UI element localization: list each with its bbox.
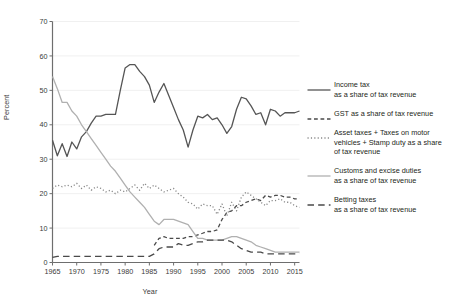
- x-tick-label: 2005: [238, 267, 254, 276]
- x-tick-label: 1985: [141, 267, 157, 276]
- y-tick-label: 30: [40, 155, 48, 164]
- y-tick-label: 10: [40, 224, 48, 233]
- series-line-3: [53, 77, 300, 253]
- tax-revenue-share-chart: 0102030405060701965197019751980198519901…: [0, 0, 461, 303]
- x-tick-label: 1975: [93, 267, 109, 276]
- legend-item-label: Income tax as a share of tax revenue: [334, 80, 416, 99]
- legend-item-label: Customs and excise duties as a share of …: [334, 166, 421, 185]
- legend-swatch-icon: [307, 167, 331, 177]
- x-tick-label: 1995: [190, 267, 206, 276]
- legend-item-1[interactable]: GST as a share of tax revenue: [307, 109, 459, 119]
- legend-item-0[interactable]: Income tax as a share of tax revenue: [307, 80, 459, 99]
- x-tick-label: 1980: [117, 267, 133, 276]
- legend-item-2[interactable]: Asset taxes + Taxes on motor vehicles + …: [307, 128, 459, 157]
- legend-item-3[interactable]: Customs and excise duties as a share of …: [307, 166, 459, 185]
- y-tick-label: 70: [40, 17, 48, 26]
- chart-legend: Income tax as a share of tax revenueGST …: [307, 80, 459, 224]
- x-tick-label: 2010: [262, 267, 278, 276]
- x-tick-label: 1970: [69, 267, 85, 276]
- legend-swatch-icon: [307, 196, 331, 206]
- y-tick-label: 40: [40, 120, 48, 129]
- series-line-0: [53, 65, 300, 157]
- axis-ticks: [50, 22, 295, 266]
- y-tick-label: 0: [44, 258, 48, 267]
- y-tick-label: 50: [40, 86, 48, 95]
- axis-lines: [53, 22, 300, 263]
- legend-swatch-icon: [307, 81, 331, 91]
- y-axis-title: Percent: [2, 95, 11, 120]
- x-axis-title: Year: [0, 287, 300, 296]
- legend-item-label: GST as a share of tax revenue: [334, 109, 433, 119]
- legend-item-label: Betting taxes as a share of tax revenue: [334, 195, 416, 214]
- legend-swatch-icon: [307, 129, 331, 139]
- legend-item-4[interactable]: Betting taxes as a share of tax revenue: [307, 195, 459, 214]
- legend-item-label: Asset taxes + Taxes on motor vehicles + …: [334, 128, 442, 157]
- x-tick-label: 2000: [214, 267, 230, 276]
- y-tick-label: 20: [40, 189, 48, 198]
- x-tick-label: 1965: [45, 267, 61, 276]
- series-line-2: [53, 183, 300, 216]
- legend-swatch-icon: [307, 110, 331, 120]
- y-tick-label: 60: [40, 52, 48, 61]
- x-tick-label: 2015: [287, 267, 303, 276]
- series-line-4: [53, 240, 300, 257]
- x-tick-label: 1990: [166, 267, 182, 276]
